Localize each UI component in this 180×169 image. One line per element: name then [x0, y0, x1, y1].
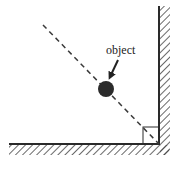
object-ball — [98, 81, 114, 97]
floor-hatching — [9, 145, 169, 155]
label-arrow-icon — [110, 60, 118, 77]
object-label: object — [106, 43, 136, 57]
corner-diagram: object — [0, 0, 180, 169]
wall-hatching — [160, 6, 170, 155]
